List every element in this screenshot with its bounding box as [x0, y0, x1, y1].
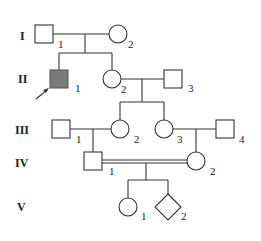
individual-number-V-2: 2: [181, 210, 187, 222]
individual-number-IV-2: 2: [210, 165, 216, 177]
generation-label-III: III: [15, 123, 29, 137]
male-I-1[interactable]: [35, 25, 53, 43]
female-III-3[interactable]: [155, 120, 173, 138]
male-IV-1[interactable]: [84, 152, 102, 170]
female-III-2[interactable]: [111, 120, 129, 138]
male-III-1[interactable]: [52, 120, 70, 138]
individual-number-IV-1: 1: [109, 165, 115, 177]
individual-number-III-2: 2: [134, 133, 140, 145]
individual-number-II-3: 3: [188, 82, 194, 94]
pedigree-chart: I II III IV V 1 2 1 2 3 1 2 3 4 1 2: [0, 0, 261, 241]
individual-number-I-2: 2: [128, 38, 134, 50]
affected-male-II-1[interactable]: [50, 70, 68, 88]
individual-number-III-1: 1: [76, 133, 82, 145]
individual-number-III-4: 4: [239, 133, 245, 145]
proband-arrow-icon: [36, 88, 49, 99]
female-IV-2[interactable]: [187, 152, 205, 170]
generation-label-V: V: [17, 200, 26, 214]
generation-label-II: II: [18, 72, 28, 86]
female-V-1[interactable]: [119, 198, 137, 216]
female-I-2[interactable]: [109, 25, 127, 43]
individual-number-II-2: 2: [121, 83, 127, 95]
male-II-3[interactable]: [164, 70, 182, 88]
male-III-4[interactable]: [216, 120, 234, 138]
unknown-sex-V-2[interactable]: [155, 194, 181, 220]
individual-number-III-3: 3: [177, 133, 183, 145]
generation-label-I: I: [20, 29, 25, 43]
generation-label-IV: IV: [15, 156, 29, 170]
individual-number-I-1: 1: [58, 38, 64, 50]
consanguineous-mating-line-IV: [102, 160, 187, 163]
individual-number-II-1: 1: [75, 82, 81, 94]
individual-number-V-1: 1: [141, 210, 147, 222]
female-II-2[interactable]: [103, 70, 121, 88]
